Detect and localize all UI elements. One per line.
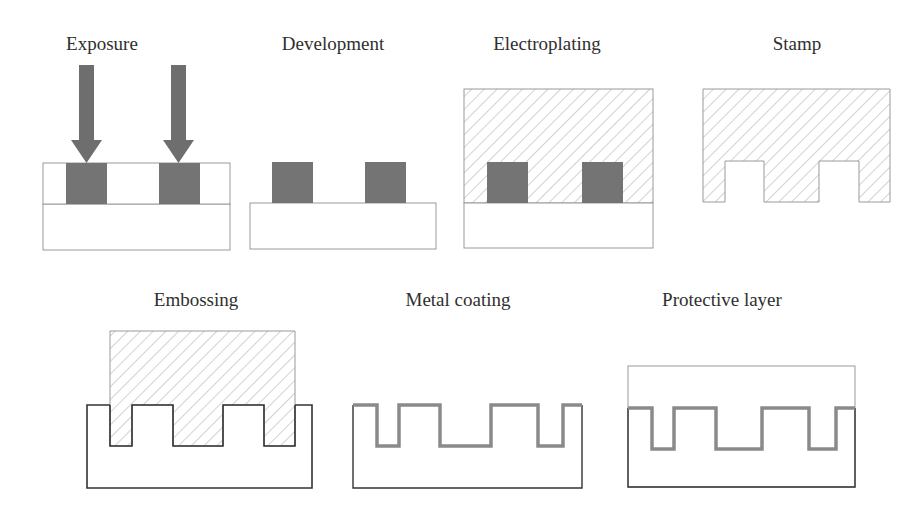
protective-layer-panel xyxy=(628,366,855,487)
electroplating-panel xyxy=(464,89,653,248)
electroplating-resist-block-1 xyxy=(487,162,528,203)
electroplating-resist-block-2 xyxy=(582,162,623,203)
protective-layer xyxy=(628,366,855,487)
development-resist-block-2 xyxy=(365,162,406,203)
metal-coating-layer xyxy=(353,405,582,446)
stamp-panel xyxy=(703,89,890,202)
arrow-down-icon xyxy=(71,65,102,163)
development-resist-block-1 xyxy=(272,162,313,203)
arrow-down-icon xyxy=(163,65,194,163)
embossing-stamp xyxy=(110,331,295,446)
exposure-resist-block-2 xyxy=(159,163,200,204)
exposure-resist-block-1 xyxy=(66,163,107,204)
embossing-panel xyxy=(87,331,312,488)
development-panel xyxy=(250,162,436,249)
process-diagram xyxy=(0,0,924,514)
metal-coating-panel xyxy=(353,405,582,488)
electroplating-substrate xyxy=(464,203,653,248)
stamp-shape xyxy=(703,89,890,202)
exposure-substrate xyxy=(43,204,230,250)
exposure-panel xyxy=(43,65,230,250)
development-substrate xyxy=(250,203,436,249)
